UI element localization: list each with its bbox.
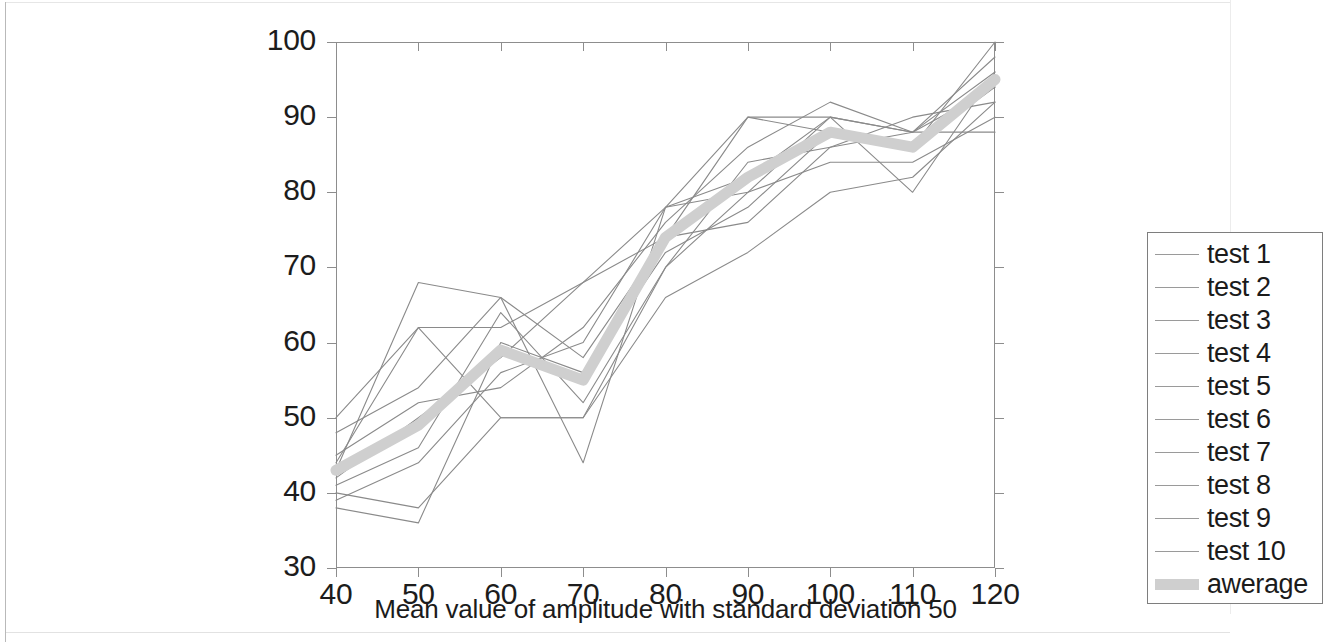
x-tick-50 [418, 568, 419, 577]
legend[interactable]: test 1test 2test 3test 4test 5test 6test… [1147, 232, 1323, 604]
x-tick-90 [748, 568, 749, 577]
x-tick-top-80 [666, 42, 667, 51]
y-tick-100 [327, 42, 336, 43]
legend-item-test-6[interactable]: test 6 [1148, 403, 1322, 436]
legend-swatch-icon [1155, 551, 1199, 552]
y-tick-70 [327, 267, 336, 268]
figure-border-left [5, 2, 6, 642]
x-tick-100 [830, 568, 831, 577]
x-tick-top-90 [748, 42, 749, 51]
y-tick-label-90: 90 [216, 98, 316, 132]
x-tick-top-40 [336, 42, 337, 51]
legend-label: test 5 [1207, 373, 1271, 400]
x-tick-80 [666, 568, 667, 577]
legend-item-test-5[interactable]: test 5 [1148, 370, 1322, 403]
y-tick-right-90 [995, 117, 1004, 118]
legend-item-test-4[interactable]: test 4 [1148, 337, 1322, 370]
x-tick-top-100 [830, 42, 831, 51]
legend-item-test-8[interactable]: test 8 [1148, 469, 1322, 502]
y-tick-label-80: 80 [216, 173, 316, 207]
legend-item-test-7[interactable]: test 7 [1148, 436, 1322, 469]
legend-label: test 3 [1207, 307, 1271, 334]
y-tick-80 [327, 192, 336, 193]
y-tick-label-100: 100 [216, 23, 316, 57]
legend-swatch-icon [1155, 579, 1199, 590]
legend-swatch-icon [1155, 386, 1199, 387]
x-tick-top-120 [995, 42, 996, 51]
x-tick-110 [913, 568, 914, 577]
series-lines [336, 42, 995, 568]
x-tick-top-110 [913, 42, 914, 51]
legend-swatch-icon [1155, 485, 1199, 486]
y-tick-right-30 [995, 568, 1004, 569]
x-tick-top-60 [501, 42, 502, 51]
legend-label: test 1 [1207, 241, 1271, 268]
legend-swatch-icon [1155, 254, 1199, 255]
legend-swatch-icon [1155, 518, 1199, 519]
x-tick-60 [501, 568, 502, 577]
x-tick-70 [583, 568, 584, 577]
legend-label: test 10 [1207, 538, 1285, 565]
y-tick-right-100 [995, 42, 1004, 43]
y-tick-right-60 [995, 343, 1004, 344]
series-line-awerage [336, 80, 995, 471]
y-tick-right-80 [995, 192, 1004, 193]
x-axis-title: Mean value of amplitude with standard de… [336, 594, 995, 625]
legend-label: test 6 [1207, 406, 1271, 433]
y-tick-90 [327, 117, 336, 118]
legend-item-test-10[interactable]: test 10 [1148, 535, 1322, 568]
x-tick-top-50 [418, 42, 419, 51]
legend-label: test 7 [1207, 439, 1271, 466]
y-tick-right-50 [995, 418, 1004, 419]
x-tick-40 [336, 568, 337, 577]
x-tick-120 [995, 568, 996, 577]
legend-item-test-3[interactable]: test 3 [1148, 304, 1322, 337]
y-tick-label-40: 40 [216, 474, 316, 508]
legend-item-test-2[interactable]: test 2 [1148, 271, 1322, 304]
legend-swatch-icon [1155, 320, 1199, 321]
y-tick-40 [327, 493, 336, 494]
plot-area: 30405060708090100 405060708090100110120 … [336, 42, 995, 568]
x-tick-top-70 [583, 42, 584, 51]
legend-label: awerage [1207, 571, 1308, 598]
y-tick-60 [327, 343, 336, 344]
y-tick-label-50: 50 [216, 399, 316, 433]
legend-label: test 4 [1207, 340, 1271, 367]
y-tick-right-70 [995, 267, 1004, 268]
series-line-test-4 [336, 42, 995, 523]
y-tick-50 [327, 418, 336, 419]
legend-swatch-icon [1155, 353, 1199, 354]
figure-border-top [6, 2, 1230, 3]
legend-label: test 2 [1207, 274, 1271, 301]
legend-label: test 9 [1207, 505, 1271, 532]
figure-border-bottom [6, 632, 1230, 633]
legend-item-test-1[interactable]: test 1 [1148, 238, 1322, 271]
legend-item-test-9[interactable]: test 9 [1148, 502, 1322, 535]
y-tick-right-40 [995, 493, 1004, 494]
y-tick-label-70: 70 [216, 248, 316, 282]
legend-swatch-icon [1155, 452, 1199, 453]
legend-item-awerage[interactable]: awerage [1148, 568, 1322, 601]
y-tick-label-60: 60 [216, 324, 316, 358]
y-tick-30 [327, 568, 336, 569]
series-line-test-9 [336, 117, 995, 485]
legend-label: test 8 [1207, 472, 1271, 499]
legend-swatch-icon [1155, 287, 1199, 288]
legend-swatch-icon [1155, 419, 1199, 420]
